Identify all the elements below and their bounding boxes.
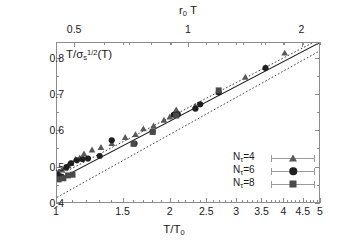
y-tick-label: 0.8 xyxy=(49,52,64,63)
top-axis-title-sub: 0 xyxy=(183,9,187,18)
x-tick-top-mirror xyxy=(123,42,124,45)
legend-errorbar-cap-left xyxy=(271,181,272,188)
data-point-N_t=8 xyxy=(150,129,156,135)
x-tick-minor xyxy=(279,200,280,203)
x-tick-minor xyxy=(133,200,134,203)
data-point-N_t=4 xyxy=(122,134,129,140)
y-tick-minor xyxy=(56,112,59,113)
data-point-N_t=8 xyxy=(173,113,179,119)
x-tick-minor xyxy=(275,200,276,203)
y-tick-minor xyxy=(56,185,59,186)
x-tick-top-minor xyxy=(171,42,172,45)
legend-errorbar-cap-right xyxy=(314,168,315,175)
legend-item-label: Nτ=6 xyxy=(233,165,271,176)
data-point-N_t=4 xyxy=(140,125,147,131)
x-tick-major xyxy=(283,198,284,203)
data-point-N_t=4 xyxy=(281,50,288,56)
x-tick-label: 1.5 xyxy=(115,206,130,217)
legend-item-label: Nτ=4 xyxy=(233,152,271,163)
x-tick-minor xyxy=(200,200,201,203)
x-tick-minor xyxy=(257,200,258,203)
x-tick-label: 4.5 xyxy=(295,206,310,217)
x-tick-label-top: 2 xyxy=(299,24,305,35)
x-tick-minor xyxy=(310,200,311,203)
x-tick-minor xyxy=(266,200,267,203)
x-tick-top-minor xyxy=(265,42,266,45)
x-tick-minor xyxy=(161,200,162,203)
y-tick-label: 0.4 xyxy=(49,198,64,209)
legend-errorbar-cap-right xyxy=(314,181,315,188)
data-point-N_t=4 xyxy=(89,147,96,153)
x-tick-top-minor xyxy=(129,42,130,45)
x-tick-minor xyxy=(86,200,87,203)
top-axis-title: r0 T xyxy=(179,5,197,17)
x-tick-top-major xyxy=(74,42,75,47)
y-tick-right xyxy=(315,130,320,131)
x-tick-minor xyxy=(185,200,186,203)
triangle-icon xyxy=(289,155,297,162)
x-tick-minor xyxy=(225,200,226,203)
y-tick-label: 0.6 xyxy=(49,125,64,136)
legend-symbol xyxy=(271,166,315,177)
x-tick-label-top: 0.5 xyxy=(67,24,82,35)
legend-item-label: Nτ=8 xyxy=(233,178,271,189)
top-axis-title-tail: T xyxy=(190,4,197,16)
y-tick-right xyxy=(315,203,320,204)
x-tick-major xyxy=(123,198,124,203)
x-tick-minor xyxy=(152,200,153,203)
x-tick-top-minor xyxy=(243,42,244,45)
bottom-axis-title-sub: 0 xyxy=(181,228,185,237)
data-point-N_t=4 xyxy=(242,74,249,80)
x-tick-top-minor xyxy=(151,42,152,45)
x-tick-major xyxy=(206,198,207,203)
data-point-N_t=6 xyxy=(192,106,198,112)
y-tick-minor-right xyxy=(317,148,320,149)
x-tick-top-minor xyxy=(218,42,219,45)
legend-label-tail: =8 xyxy=(243,177,254,188)
data-point-N_t=4 xyxy=(173,106,180,112)
data-point-N_t=6 xyxy=(68,160,74,166)
x-tick-top-minor xyxy=(317,42,318,45)
legend-item-1: Nτ=4 xyxy=(233,152,315,164)
x-tick-minor xyxy=(72,200,73,203)
x-tick-minor xyxy=(242,200,243,203)
x-tick-top-major xyxy=(302,42,303,47)
x-tick-minor xyxy=(178,200,179,203)
x-tick-minor xyxy=(111,200,112,203)
legend-item-3: Nτ=8 xyxy=(233,178,315,190)
legend-item-2: Nτ=6 xyxy=(233,165,315,177)
legend-symbol xyxy=(271,179,315,190)
x-tick-label: 3.5 xyxy=(254,206,269,217)
data-point-N_t=6 xyxy=(79,156,85,162)
chart-figure: r0 T T/σs1/2(T) T/T0 11.522.533.544.550.… xyxy=(0,0,345,245)
x-tick-minor xyxy=(271,200,272,203)
circle-icon xyxy=(289,167,297,175)
x-tick-label: 3 xyxy=(233,206,239,217)
legend-errorbar-cap-left xyxy=(271,155,272,162)
data-point-N_t=4 xyxy=(81,151,88,157)
y-tick-label: 0.7 xyxy=(49,89,64,100)
x-tick-minor xyxy=(193,200,194,203)
x-tick-label: 2 xyxy=(167,206,173,217)
x-tick-top-major xyxy=(188,42,189,47)
x-tick-major xyxy=(303,198,304,203)
bottom-axis-title: T/T0 xyxy=(163,224,184,236)
x-tick-minor xyxy=(306,200,307,203)
data-point-N_t=8 xyxy=(131,141,137,147)
x-tick-label: 4 xyxy=(280,206,286,217)
x-tick-label-top: 1 xyxy=(185,24,191,35)
x-tick-label: 2.5 xyxy=(199,206,214,217)
x-tick-major xyxy=(236,198,237,203)
x-tick-minor xyxy=(213,200,214,203)
x-tick-top-minor xyxy=(284,42,285,45)
y-tick-minor xyxy=(56,76,59,77)
data-point-N_t=6 xyxy=(262,65,268,71)
x-tick-minor xyxy=(231,200,232,203)
square-icon xyxy=(290,181,297,188)
x-tick-top-mirror xyxy=(320,42,321,45)
x-tick-top-mirror xyxy=(56,42,57,45)
data-point-N_t=6 xyxy=(197,101,203,107)
x-tick-minor xyxy=(291,200,292,203)
data-point-N_t=4 xyxy=(98,144,105,150)
data-point-N_t=8 xyxy=(216,87,222,93)
